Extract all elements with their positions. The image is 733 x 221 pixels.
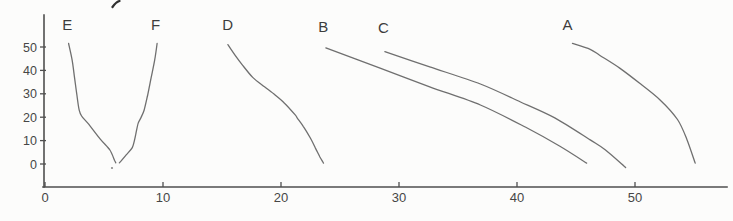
x-tick-label: 50 <box>628 190 642 205</box>
x-tick-label: 30 <box>392 190 406 205</box>
ink-speck <box>111 167 113 169</box>
y-tick-label: 20 <box>23 111 37 125</box>
scanned-chart-page: 0102030405001020304050 EFDBCA <box>0 0 733 221</box>
x-tick-label: 40 <box>510 190 524 205</box>
x-tick-label: 20 <box>274 190 288 205</box>
curve-label-D: D <box>222 16 233 33</box>
curve-label-E: E <box>62 16 73 33</box>
curve-label-C: C <box>378 19 389 36</box>
y-tick-label: 0 <box>30 158 37 172</box>
curve-label-B: B <box>318 18 329 35</box>
chart-canvas: 0102030405001020304050 EFDBCA <box>0 0 733 221</box>
y-tick-label: 30 <box>23 87 37 101</box>
chart-background <box>0 0 733 221</box>
x-tick-label: 0 <box>41 190 48 205</box>
curve-label-F: F <box>151 16 161 33</box>
curve-label-A: A <box>562 16 573 33</box>
y-tick-label: 50 <box>23 41 37 55</box>
x-tick-label: 10 <box>156 190 170 205</box>
y-tick-label: 10 <box>23 134 37 148</box>
y-tick-label: 40 <box>23 64 37 78</box>
